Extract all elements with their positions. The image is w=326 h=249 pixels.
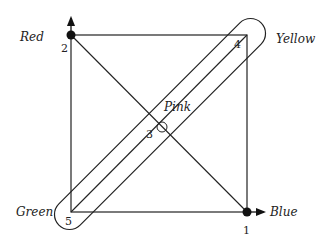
- number-5: 5: [65, 215, 72, 228]
- vertex-red-dot: [67, 31, 76, 40]
- label-blue: Blue: [269, 205, 298, 219]
- number-1: 1: [243, 224, 250, 237]
- label-green: Green: [16, 205, 53, 219]
- diagram-canvas: Red Yellow Pink Green Blue 2 4 3 5 1: [0, 0, 326, 249]
- diagram-svg: Red Yellow Pink Green Blue 2 4 3 5 1: [0, 0, 326, 249]
- number-3: 3: [146, 128, 153, 141]
- number-2: 2: [61, 42, 68, 55]
- number-4: 4: [234, 38, 241, 51]
- vertex-blue-dot: [243, 208, 252, 217]
- label-pink: Pink: [163, 100, 191, 114]
- label-yellow: Yellow: [276, 32, 316, 46]
- label-red: Red: [19, 30, 44, 44]
